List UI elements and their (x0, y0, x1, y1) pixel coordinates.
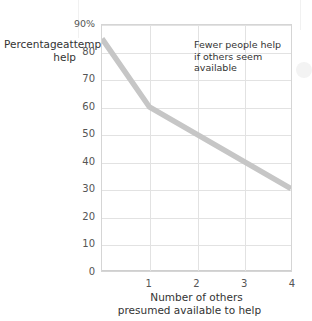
scan-artifact-smudge (296, 62, 312, 78)
plot-area: Fewer people helpif others seemavailable (101, 24, 292, 272)
y-tick-label-80: 80 (49, 47, 95, 57)
x-tick-label-2: 2 (187, 278, 207, 289)
annotation-bystander-effect-note: Fewer people helpif others seemavailable (194, 39, 298, 74)
scan-artifact-right (300, 0, 301, 30)
text-line: Fewer people help (194, 39, 298, 51)
text-line: available (194, 62, 298, 74)
y-tick-label-0: 0 (49, 267, 95, 277)
y-tick-label-60: 60 (49, 102, 95, 112)
y-tick-label-40: 40 (49, 157, 95, 167)
y-tick-label-50: 50 (49, 129, 95, 139)
annotation-layer: Fewer people helpif others seemavailable (102, 25, 291, 271)
y-tick-label-20: 20 (49, 212, 95, 222)
x-tick-label-3: 3 (234, 278, 254, 289)
text-line: Number of others (101, 291, 292, 304)
text-line: if others seem (194, 51, 298, 63)
y-tick-label-10: 10 (49, 239, 95, 249)
text-line: presumed available to help (87, 304, 292, 317)
x-tick-label-4: 4 (282, 278, 302, 289)
line-chart-figure: Percentageattemptingto help Fewer people… (0, 0, 312, 321)
x-tick-label-1: 1 (139, 278, 159, 289)
y-tick-label-30: 30 (49, 184, 95, 194)
x-axis-title: Number of otherspresumed available to he… (101, 291, 292, 317)
y-tick-label-90pct: 90% (49, 19, 95, 29)
y-tick-label-70: 70 (49, 74, 95, 84)
